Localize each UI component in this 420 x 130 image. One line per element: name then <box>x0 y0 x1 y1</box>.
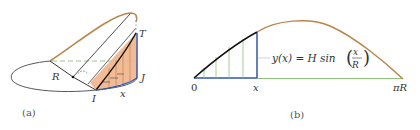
figure: T J I R x (a) 0 x πR y(x) = H si <box>0 0 420 130</box>
curve-0-to-x <box>194 32 257 78</box>
angle-mark <box>78 71 88 74</box>
center-point <box>72 76 75 79</box>
label-piR: πR <box>392 82 408 93</box>
label-T: T <box>139 28 147 39</box>
caption-b: (b) <box>290 109 304 120</box>
label-x-b: x <box>253 82 259 93</box>
equation-numerator: x <box>353 47 358 57</box>
label-x: x <box>120 88 126 99</box>
panel-a-diagram: T J I R x (a) <box>11 13 147 118</box>
label-R: R <box>51 71 60 82</box>
equation-lhs: y(x) = H sin <box>271 52 336 64</box>
label-origin: 0 <box>191 82 197 93</box>
curve-x-to-piR <box>257 21 403 79</box>
panel-b-graph: 0 x πR y(x) = H sin ( x R ) (b) <box>191 21 408 120</box>
paren-close: ) <box>363 47 370 68</box>
caption-a: (a) <box>22 107 36 118</box>
label-I: I <box>91 93 97 104</box>
equation: y(x) = H sin ( x R ) <box>271 47 370 70</box>
equation-denominator: R <box>351 60 359 70</box>
label-J: J <box>139 72 146 83</box>
